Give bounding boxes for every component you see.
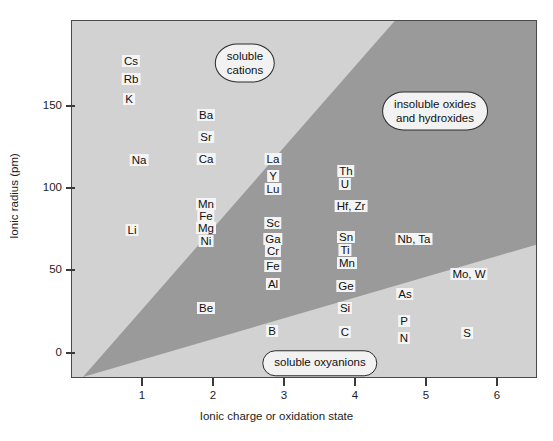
plot-area: Cs Rb K Na Li Ba Sr Ca Mn Fe Mg Ni Be La… <box>71 20 537 378</box>
element-label: Fe <box>264 260 281 272</box>
insoluble-oxides-callout: insoluble oxides and hydroxides <box>382 92 488 131</box>
y-tick-mark-150 <box>66 105 75 107</box>
y-tick-label-50: 50 <box>22 264 62 275</box>
y-tick-label-150: 150 <box>22 100 62 111</box>
y-tick-label-0: 0 <box>22 347 62 358</box>
x-axis-title: Ionic charge or oxidation state <box>0 410 553 422</box>
element-label: Ge <box>336 280 355 292</box>
x-tick-mark-3 <box>283 378 285 386</box>
element-label: Al <box>266 278 280 290</box>
x-tick-mark-4 <box>354 378 356 386</box>
element-label: Sn <box>337 231 355 243</box>
element-label: Ti <box>338 244 351 256</box>
element-label: Sc <box>264 217 281 229</box>
element-label: Cr <box>265 245 281 257</box>
element-label: As <box>396 288 413 300</box>
element-label: Mo, W <box>450 268 487 280</box>
y-tick-mark-0 <box>66 352 75 354</box>
element-label: K <box>123 93 135 105</box>
element-label: N <box>398 332 410 344</box>
element-label: Fe <box>197 210 214 222</box>
x-tick-mark-1 <box>141 378 143 386</box>
y-tick-mark-100 <box>66 187 75 189</box>
element-label: Ca <box>197 153 216 165</box>
x-tick-label-3: 3 <box>272 389 296 401</box>
element-label: Ga <box>263 233 282 245</box>
element-label: Si <box>338 302 352 314</box>
element-label: Y <box>267 170 279 182</box>
element-label: Mn <box>337 257 357 269</box>
soluble-oxyanions-callout: soluble oxyanions <box>262 350 377 376</box>
x-tick-label-6: 6 <box>485 389 509 401</box>
soluble-cations-callout: soluble cations <box>215 44 275 83</box>
soluble-cations-line2: cations <box>227 63 263 77</box>
y-tick-label-100: 100 <box>22 182 62 193</box>
soluble-cations-line1: soluble <box>227 50 263 64</box>
element-label: Na <box>130 154 149 166</box>
soluble-oxyanions-text: soluble oxyanions <box>274 356 365 370</box>
x-tick-label-2: 2 <box>201 389 225 401</box>
element-label: Ni <box>199 235 214 247</box>
ionic-radius-vs-charge-chart: Cs Rb K Na Li Ba Sr Ca Mn Fe Mg Ni Be La… <box>0 0 553 441</box>
x-tick-label-4: 4 <box>343 389 367 401</box>
element-label: Be <box>197 302 215 314</box>
element-label: U <box>339 178 351 190</box>
element-label: Mg <box>196 222 216 234</box>
x-tick-mark-5 <box>425 378 427 386</box>
element-label: Mn <box>196 198 216 210</box>
element-label: Cs <box>122 55 140 67</box>
x-tick-mark-6 <box>496 378 498 386</box>
element-label: Sr <box>198 131 214 143</box>
element-label: Lu <box>265 183 282 195</box>
element-label: Hf, Zr <box>335 200 368 212</box>
y-tick-mark-50 <box>66 269 75 271</box>
insoluble-wedge-shape <box>83 21 536 377</box>
element-label: B <box>266 325 278 337</box>
element-label: Th <box>337 165 354 177</box>
element-label: Ba <box>197 109 215 121</box>
element-label: C <box>339 326 351 338</box>
insoluble-region-wedge <box>72 21 536 377</box>
element-label: Li <box>126 224 139 236</box>
x-tick-label-1: 1 <box>130 389 154 401</box>
element-label: S <box>461 327 473 339</box>
x-tick-label-5: 5 <box>414 389 438 401</box>
element-label: Nb, Ta <box>395 233 432 245</box>
insoluble-line1: insoluble oxides <box>394 98 476 112</box>
x-tick-mark-2 <box>212 378 214 386</box>
element-label: Rb <box>122 73 141 85</box>
element-label: P <box>398 315 410 327</box>
insoluble-line2: and hydroxides <box>394 111 476 125</box>
element-label: La <box>265 153 282 165</box>
y-axis-title: Ionic radius (pm) <box>8 116 20 276</box>
